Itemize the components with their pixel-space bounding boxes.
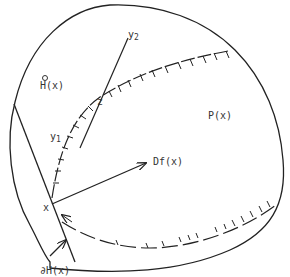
lower-hatched-curve	[62, 205, 276, 248]
half-space-boundary-line	[14, 104, 75, 262]
upper-hatched-curve	[52, 51, 228, 198]
label-p: P(x)	[208, 111, 232, 121]
df-arrow	[52, 163, 146, 204]
label-x: x	[43, 203, 49, 213]
interior-ring-mark: H(x)	[40, 81, 64, 91]
label-y1: y1	[50, 132, 61, 144]
label-y2: y2	[128, 30, 139, 42]
label-h-interior: H(x)	[40, 81, 64, 91]
label-z: z	[97, 97, 103, 107]
diagram-canvas: y2 H(x) z P(x) y1 Df(x) x ∂H(x)	[0, 0, 290, 277]
boundary-pointer-arrow	[50, 240, 66, 256]
diagram-svg	[0, 0, 290, 277]
label-df: Df(x)	[153, 157, 183, 167]
label-boundary-h: ∂H(x)	[40, 266, 70, 276]
segment-y1-y2	[80, 38, 128, 148]
boundary-direction-arrow	[62, 215, 72, 222]
